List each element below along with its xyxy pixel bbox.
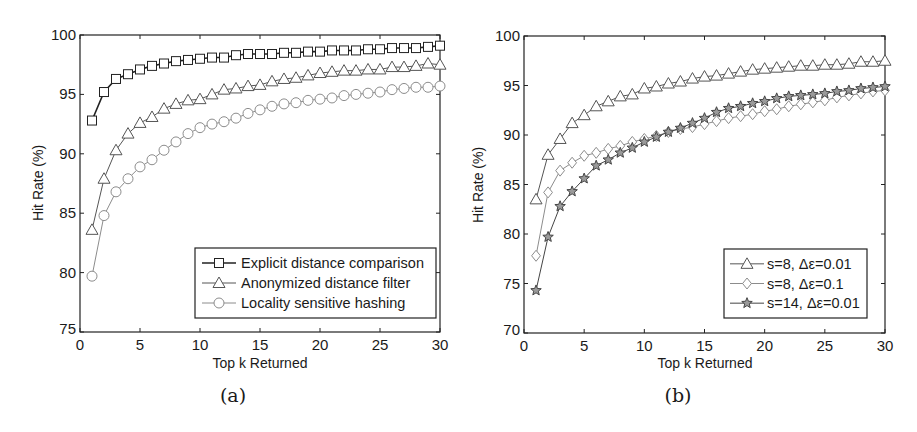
y-tick-label: 80 — [503, 225, 520, 242]
square-marker — [184, 55, 193, 64]
diamond-marker — [604, 143, 613, 154]
y-tick-label: 75 — [59, 320, 76, 337]
y-tick-label: 95 — [503, 77, 520, 94]
circle-marker — [135, 162, 145, 172]
legend: Explicit distance comparisonAnonymized d… — [195, 248, 436, 318]
star-marker — [543, 231, 553, 241]
circle-marker — [219, 117, 229, 127]
circle-marker — [243, 108, 253, 118]
plot-area-a: 0510152025307580859095100Explicit distan… — [51, 26, 448, 353]
x-axis-label-a: Top k Returned — [213, 355, 308, 371]
y-tick-label: 90 — [503, 126, 520, 143]
star-marker — [784, 91, 794, 101]
series-triangle — [86, 58, 446, 235]
x-tick-label: 30 — [877, 337, 894, 354]
triangle-marker — [819, 59, 831, 70]
triangle-marker — [855, 56, 867, 66]
circle-marker — [291, 98, 301, 108]
star-marker — [531, 285, 541, 295]
star-marker — [796, 90, 806, 100]
square-marker — [364, 45, 373, 54]
triangle-marker — [602, 95, 614, 106]
circle-marker — [111, 187, 121, 197]
square-marker — [208, 53, 217, 62]
square-marker — [316, 47, 325, 56]
legend-item: s=8, Δε=0.1 — [730, 276, 844, 292]
star-marker — [771, 93, 781, 103]
x-tick-label: 20 — [312, 336, 329, 353]
y-tick-label: 85 — [503, 176, 520, 193]
star-marker — [747, 98, 757, 108]
triangle-marker — [146, 111, 158, 122]
square-marker — [280, 48, 289, 57]
chart-panel-a: 0510152025307580859095100Explicit distan… — [30, 26, 448, 406]
star-marker — [627, 142, 637, 152]
square-marker — [340, 46, 349, 55]
y-tick-label: 70 — [503, 321, 520, 338]
square-marker — [172, 57, 181, 66]
triangle-marker — [206, 88, 218, 99]
triangle-marker — [86, 224, 98, 235]
diamond-marker — [724, 113, 733, 124]
star-marker — [603, 154, 613, 164]
circle-marker — [195, 123, 205, 133]
diamond-marker — [532, 250, 541, 261]
square-marker — [352, 46, 361, 55]
square-marker — [136, 65, 145, 74]
triangle-marker — [386, 61, 398, 71]
circle-marker — [183, 129, 193, 139]
triangle-marker — [194, 93, 206, 104]
x-tick-label: 20 — [756, 337, 773, 354]
caption-a: (a) — [220, 384, 246, 406]
square-marker — [376, 45, 385, 54]
x-tick-label: 0 — [76, 336, 84, 353]
star-marker — [832, 86, 842, 96]
triangle-marker — [590, 100, 602, 111]
square-marker — [424, 42, 433, 51]
square-marker — [244, 50, 253, 59]
y-tick-label: 75 — [503, 275, 520, 292]
square-marker — [112, 74, 121, 83]
triangle-marker — [795, 60, 807, 70]
legend-label: Locality sensitive hashing — [241, 295, 405, 311]
x-tick-label: 0 — [520, 337, 528, 354]
x-tick-label: 10 — [636, 337, 653, 354]
x-tick-label: 25 — [816, 337, 833, 354]
diamond-marker — [580, 150, 589, 161]
circle-marker — [327, 93, 337, 103]
circle-marker — [375, 87, 385, 97]
y-tick-label: 100 — [51, 26, 76, 43]
triangle-marker — [98, 173, 110, 184]
circle-marker — [387, 85, 397, 95]
x-tick-label: 5 — [136, 336, 144, 353]
square-marker — [100, 88, 109, 97]
circle-marker — [214, 298, 224, 308]
star-marker — [735, 101, 745, 111]
x-tick-label: 15 — [696, 337, 713, 354]
circle-marker — [147, 155, 157, 165]
star-marker — [615, 147, 625, 157]
circle-marker — [99, 211, 109, 221]
y-tick-label: 80 — [59, 264, 76, 281]
square-marker — [268, 50, 277, 59]
square-marker — [124, 70, 133, 79]
square-marker — [232, 51, 241, 60]
star-marker — [675, 123, 685, 133]
legend-label: Explicit distance comparison — [241, 255, 424, 271]
square-marker — [220, 53, 229, 62]
square-marker — [88, 116, 97, 125]
square-marker — [304, 47, 313, 56]
circle-marker — [171, 137, 181, 147]
diamond-marker — [592, 147, 601, 158]
triangle-marker — [122, 128, 134, 139]
triangle-marker — [554, 133, 566, 144]
y-axis-label-a: Hit Rate (%) — [30, 145, 46, 221]
circle-marker — [339, 91, 349, 101]
x-tick-label: 15 — [252, 336, 269, 353]
triangle-marker — [566, 117, 578, 128]
circle-marker — [279, 99, 289, 109]
star-marker — [651, 131, 661, 141]
diamond-marker — [796, 99, 805, 110]
diamond-marker — [568, 157, 577, 168]
circle-marker — [231, 113, 241, 123]
